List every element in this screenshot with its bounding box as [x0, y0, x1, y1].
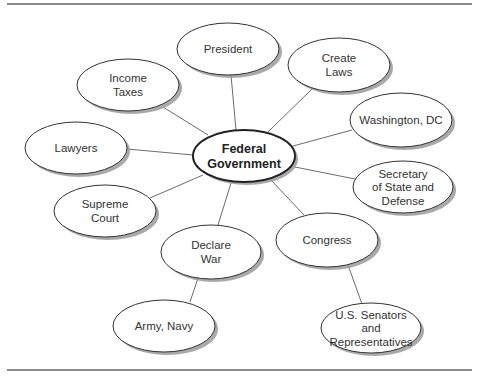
node-label-line: Government	[207, 157, 281, 171]
edge-federal-government-to-supreme-court	[150, 175, 203, 198]
node-label-line: U.S. Senators	[335, 309, 407, 321]
node-income-taxes: IncomeTaxes	[77, 59, 182, 114]
edge-federal-government-to-congress	[271, 180, 304, 215]
node-secretary-of-state-and-defense: Secretaryof State andDefense	[353, 161, 456, 216]
node-label-line: Court	[91, 212, 120, 224]
node-us-senators-and-representatives: U.S. SenatorsandRepresentatives	[321, 303, 424, 356]
edge-federal-government-to-declare-war	[218, 183, 231, 225]
node-label-line: Supreme	[82, 198, 129, 210]
node-label-line: President	[204, 43, 253, 55]
node-label-line: and	[361, 322, 380, 334]
node-label-line: Secretary	[378, 168, 427, 180]
node-label-line: Defense	[382, 195, 425, 207]
node-label-line: Army, Navy	[135, 320, 194, 332]
edge-federal-government-to-income-taxes	[163, 107, 208, 135]
node-federal-government: FederalGovernment	[193, 130, 298, 185]
node-lawyers: Lawyers	[25, 122, 130, 177]
node-washington-dc: Washington, DC	[350, 93, 455, 150]
node-label-line: Representatives	[329, 336, 412, 348]
node-label-line: Washington, DC	[359, 114, 442, 126]
node-label-line: Laws	[326, 66, 353, 78]
edge-federal-government-to-washington-dc	[293, 130, 352, 146]
node-congress: Congress	[276, 213, 381, 270]
edge-federal-government-to-lawyers	[127, 149, 193, 155]
node-label-line: of State and	[372, 181, 434, 193]
node-label-line: Federal	[222, 142, 266, 156]
node-label-line: Declare	[191, 239, 231, 251]
node-supreme-court: SupremeCourt	[54, 185, 159, 240]
edge-declare-war-to-army-navy	[190, 278, 198, 302]
concept-map: PresidentCreateLawsIncomeTaxesWashington…	[0, 0, 483, 378]
node-label-line: Congress	[302, 234, 351, 246]
edge-federal-government-to-secretary-of-state-and-defense	[295, 167, 355, 179]
node-label-line: Create	[322, 52, 357, 64]
concept-nodes: PresidentCreateLawsIncomeTaxesWashington…	[25, 23, 456, 356]
node-create-laws: CreateLaws	[288, 38, 393, 95]
edge-federal-government-to-create-laws	[268, 89, 312, 132]
node-label-line: Lawyers	[55, 142, 98, 154]
edge-congress-to-us-senators-and-representatives	[348, 265, 362, 304]
node-label-line: Taxes	[113, 86, 143, 98]
node-army-navy: Army, Navy	[113, 300, 218, 355]
node-president: President	[177, 23, 282, 78]
concept-map-canvas: PresidentCreateLawsIncomeTaxesWashington…	[0, 0, 483, 378]
node-declare-war: DeclareWar	[161, 225, 264, 282]
edge-federal-government-to-president	[231, 75, 236, 130]
node-label-line: Income	[109, 72, 147, 84]
node-label-line: War	[201, 253, 222, 265]
